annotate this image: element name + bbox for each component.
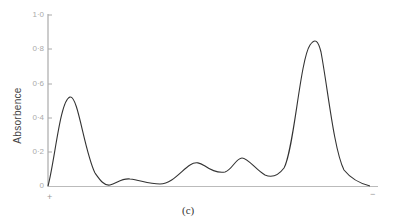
x-start-sign: + xyxy=(47,192,52,202)
x-end-sign: − xyxy=(370,189,375,199)
absorbence-curve xyxy=(48,41,370,186)
chart-plot xyxy=(0,0,399,223)
y-axis-ticks xyxy=(48,15,52,152)
figure-caption: (c) xyxy=(182,204,194,216)
